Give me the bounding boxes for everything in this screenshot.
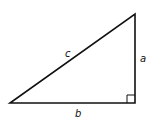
vertical-leg-label-a: a [140,53,146,64]
horizontal-leg-label-b: b [75,108,81,119]
triangle-outline [10,14,135,103]
right-triangle-diagram: c a b [0,0,149,121]
hypotenuse-label-c: c [65,48,71,59]
right-angle-marker [127,95,135,103]
